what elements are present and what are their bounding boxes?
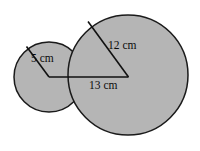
label-large-radius: 12 cm: [108, 39, 136, 51]
label-base-segment: 13 cm: [89, 79, 117, 91]
figure-canvas: 5 cm 12 cm 13 cm: [0, 0, 200, 151]
label-small-radius: 5 cm: [31, 52, 54, 64]
geometry-figure: 5 cm 12 cm 13 cm: [0, 0, 200, 151]
